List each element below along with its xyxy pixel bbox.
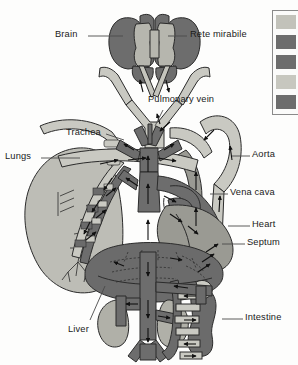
label-intestine: Intestine [245, 313, 282, 322]
label-lungs: Lungs [5, 152, 31, 161]
diagram-canvas: .ol{stroke:#2b2b2b;stroke-width:1;} .olt… [0, 0, 298, 365]
label-heart: Heart [252, 220, 275, 229]
legend-box [272, 10, 298, 115]
label-trachea: Trachea [66, 128, 101, 137]
legend-swatch-1 [276, 35, 296, 49]
label-liver: Liver [68, 325, 89, 334]
legend-swatch-2 [276, 55, 296, 69]
anatomy-illustration: .ol{stroke:#2b2b2b;stroke-width:1;} .olt… [0, 0, 298, 365]
label-aorta: Aorta [252, 150, 275, 159]
label-vena-cava: Vena cava [230, 188, 275, 197]
legend-swatch-3 [276, 75, 296, 89]
label-pulmonary-vein: Pulmonary vein [148, 95, 214, 104]
label-brain: Brain [55, 30, 77, 39]
label-rete-mirabile: Rete mirabile [190, 30, 247, 39]
label-septum: Septum [247, 238, 280, 247]
legend-swatch-0 [276, 15, 296, 29]
legend-swatch-4 [276, 95, 296, 109]
